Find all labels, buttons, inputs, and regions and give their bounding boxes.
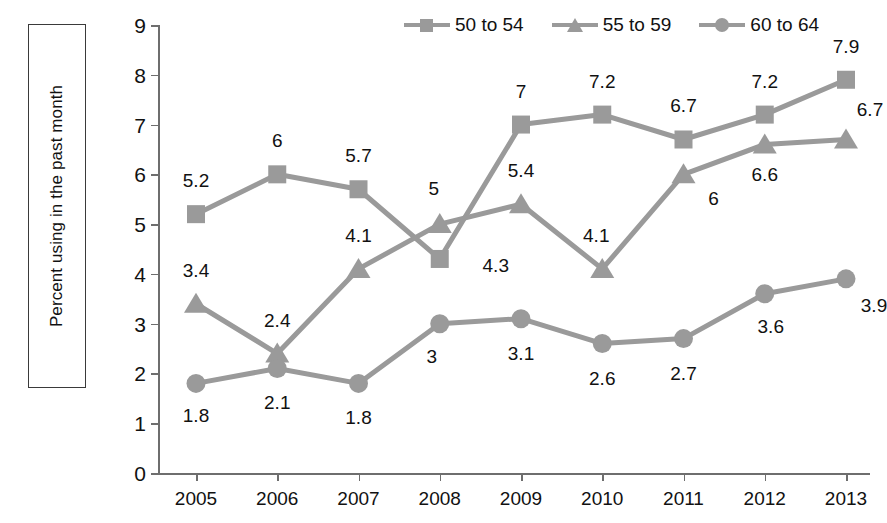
y-tick-label: 0 xyxy=(134,463,146,484)
x-tick-mark xyxy=(440,473,442,481)
data-point-label: 6 xyxy=(708,189,719,208)
data-point-label: 5.4 xyxy=(508,161,534,180)
x-tick-mark xyxy=(277,473,279,481)
data-point-label: 7.9 xyxy=(833,36,859,55)
data-point-marker xyxy=(268,359,287,378)
y-tick-mark xyxy=(151,224,158,226)
data-point-marker xyxy=(184,293,208,313)
data-point-label: 3 xyxy=(426,346,437,365)
x-tick-mark xyxy=(684,473,686,481)
data-point-label: 2.1 xyxy=(264,393,290,412)
data-point-label: 6.6 xyxy=(752,165,778,184)
y-tick-mark xyxy=(151,25,158,27)
data-point-marker xyxy=(756,106,774,124)
data-point-label: 3.9 xyxy=(861,295,887,314)
x-tick-mark xyxy=(765,473,767,481)
y-tick-label: 6 xyxy=(134,164,146,185)
y-tick-mark xyxy=(151,125,158,127)
data-point-label: 5.2 xyxy=(183,171,209,190)
y-tick-label: 3 xyxy=(134,313,146,334)
x-tick-label: 2006 xyxy=(256,488,298,510)
x-tick-label: 2008 xyxy=(419,488,461,510)
data-point-marker xyxy=(593,106,611,124)
data-point-marker xyxy=(837,269,856,288)
x-axis-line xyxy=(158,473,870,475)
data-point-label: 6.7 xyxy=(857,100,883,119)
data-point-marker xyxy=(755,284,774,303)
data-point-label: 7.2 xyxy=(752,71,778,90)
data-point-marker xyxy=(509,193,533,213)
x-tick-label: 2010 xyxy=(581,488,623,510)
y-axis-title: Percent using in the past month xyxy=(47,85,67,327)
data-point-marker xyxy=(187,205,205,223)
data-point-marker xyxy=(347,258,371,278)
y-tick-mark xyxy=(151,75,158,77)
y-tick-label: 4 xyxy=(134,263,146,284)
data-point-marker xyxy=(837,71,855,89)
y-tick-label: 8 xyxy=(134,64,146,85)
y-tick-label: 7 xyxy=(134,114,146,135)
data-point-marker xyxy=(431,250,449,268)
x-tick-label: 2011 xyxy=(663,488,704,510)
data-point-marker xyxy=(187,374,206,393)
x-tick-mark xyxy=(846,473,848,481)
y-tick-label: 1 xyxy=(134,413,146,434)
data-point-label: 7.2 xyxy=(589,71,615,90)
data-point-label: 3.1 xyxy=(508,343,534,362)
plot-area: 0123456789 20052006200720082009201020112… xyxy=(158,25,870,473)
x-tick-label: 2012 xyxy=(744,488,786,510)
data-point-label: 1.8 xyxy=(183,406,209,425)
x-tick-mark xyxy=(196,473,198,481)
data-point-label: 6.7 xyxy=(670,96,696,115)
x-tick-label: 2009 xyxy=(500,488,542,510)
data-point-label: 3.6 xyxy=(758,316,784,335)
data-point-marker xyxy=(430,314,449,333)
data-point-label: 2.7 xyxy=(670,363,696,382)
data-point-label: 4.3 xyxy=(483,255,509,274)
y-tick-mark xyxy=(151,423,158,425)
data-point-marker xyxy=(512,309,531,328)
y-tick-mark xyxy=(151,174,158,176)
x-tick-label: 2005 xyxy=(175,488,217,510)
series-line-60-to-64 xyxy=(196,279,846,384)
y-axis-title-box: Percent using in the past month xyxy=(28,24,86,388)
data-point-marker xyxy=(675,130,693,148)
data-point-label: 2.4 xyxy=(264,310,290,329)
y-tick-mark xyxy=(151,373,158,375)
data-point-marker xyxy=(593,334,612,353)
data-point-marker xyxy=(512,116,530,134)
y-tick-label: 9 xyxy=(134,15,146,36)
y-tick-label: 5 xyxy=(134,214,146,235)
data-point-label: 1.8 xyxy=(345,408,371,427)
y-tick-label: 2 xyxy=(134,363,146,384)
x-tick-label: 2007 xyxy=(337,488,379,510)
x-tick-label: 2013 xyxy=(825,488,867,510)
data-point-label: 6 xyxy=(272,131,283,150)
x-tick-mark xyxy=(602,473,604,481)
x-tick-mark xyxy=(521,473,523,481)
y-tick-mark xyxy=(151,274,158,276)
data-point-label: 2.6 xyxy=(589,368,615,387)
data-point-label: 3.4 xyxy=(183,260,209,279)
data-point-marker xyxy=(350,180,368,198)
data-point-label: 4.1 xyxy=(583,225,609,244)
data-point-label: 4.1 xyxy=(345,225,371,244)
data-point-label: 5.7 xyxy=(345,146,371,165)
x-tick-mark xyxy=(359,473,361,481)
data-point-marker xyxy=(674,329,693,348)
y-tick-mark xyxy=(151,473,158,475)
data-point-label: 5 xyxy=(428,179,439,198)
data-point-label: 7 xyxy=(516,81,527,100)
data-point-marker xyxy=(349,374,368,393)
y-tick-mark xyxy=(151,324,158,326)
data-point-marker xyxy=(268,165,286,183)
